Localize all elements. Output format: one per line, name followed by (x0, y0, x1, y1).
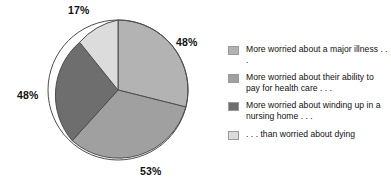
legend-label-worried-dying: . . . than worried about dying (246, 129, 355, 140)
pie-label-nursing-home: 48% (17, 89, 38, 101)
chart-legend: More worried about a major illness . . .… (228, 44, 388, 147)
pie-label-pay-health-care: 53% (140, 165, 161, 177)
pie-label-major-illness: 48% (176, 36, 197, 48)
legend-item-nursing-home[interactable]: More worried about winding up in a nursi… (228, 100, 388, 121)
legend-swatch-nursing-home (228, 102, 239, 111)
legend-item-pay-health-care[interactable]: More worried about their ability to pay … (228, 72, 388, 93)
legend-label-nursing-home: More worried about winding up in a nursi… (246, 100, 388, 121)
pie-label-worried-dying: 17% (68, 4, 89, 16)
legend-swatch-worried-dying (228, 131, 239, 140)
legend-item-major-illness[interactable]: More worried about a major illness . . . (228, 44, 388, 65)
pie-chart-plot-area: 17% 48% 48% 53% (0, 0, 215, 186)
legend-swatch-major-illness (228, 46, 239, 55)
pie-chart-figure: 17% 48% 48% 53% More worried about a maj… (0, 0, 391, 186)
legend-label-major-illness: More worried about a major illness . . . (246, 44, 388, 65)
legend-label-pay-health-care: More worried about their ability to pay … (246, 72, 388, 93)
legend-item-worried-dying[interactable]: . . . than worried about dying (228, 129, 388, 140)
legend-swatch-pay-health-care (228, 74, 239, 83)
